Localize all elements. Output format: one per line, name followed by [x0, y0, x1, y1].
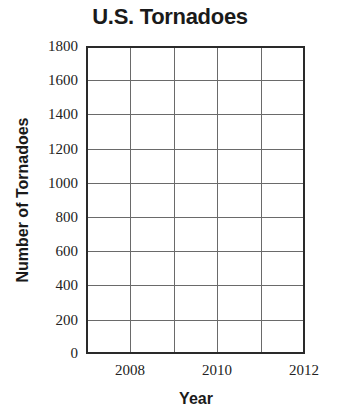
- gridline-h-800: [88, 217, 303, 218]
- gridline-v-2: [174, 48, 175, 352]
- y-tick-1600: 1600: [48, 72, 78, 89]
- y-tick-1200: 1200: [48, 140, 78, 157]
- gridline-h-200: [88, 320, 303, 321]
- y-tick-400: 400: [56, 277, 79, 294]
- y-tick-1800: 1800: [48, 38, 78, 55]
- chart-title: U.S. Tornadoes: [0, 4, 340, 30]
- y-tick-800: 800: [56, 209, 79, 226]
- x-tick-2012: 2012: [289, 362, 319, 379]
- gridline-v-4: [261, 48, 262, 352]
- plot-area: [86, 46, 305, 354]
- y-tick-600: 600: [56, 243, 79, 260]
- gridline-v-1: [130, 48, 131, 352]
- gridline-h-600: [88, 251, 303, 252]
- gridline-h-1400: [88, 114, 303, 115]
- y-tick-200: 200: [56, 311, 79, 328]
- gridline-v-3: [217, 48, 218, 352]
- y-tick-1400: 1400: [48, 106, 78, 123]
- gridline-h-1600: [88, 80, 303, 81]
- x-axis-label: Year: [179, 390, 213, 408]
- x-tick-2008: 2008: [115, 362, 145, 379]
- x-tick-2010: 2010: [202, 362, 232, 379]
- gridline-h-1200: [88, 149, 303, 150]
- gridline-h-1000: [88, 183, 303, 184]
- y-tick-1000: 1000: [48, 174, 78, 191]
- y-tick-0: 0: [71, 345, 79, 362]
- y-axis-label: Number of Tornadoes: [14, 117, 32, 282]
- gridline-h-400: [88, 285, 303, 286]
